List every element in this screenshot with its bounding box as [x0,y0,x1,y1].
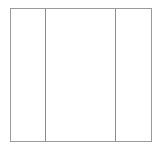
divider-line-left [45,9,46,141]
divider-line-right [115,9,116,141]
outer-box [10,8,152,142]
